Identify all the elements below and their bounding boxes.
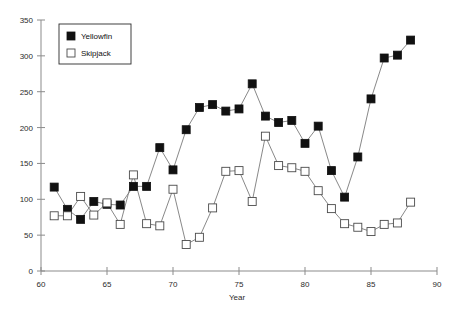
- x-axis-tick-label: 75: [235, 280, 244, 289]
- y-axis-tick-label: 300: [20, 52, 34, 61]
- data-point-yellowfin: [222, 107, 230, 115]
- line-chart-plot: 050100150200250300350 60657075808590 Yel…: [0, 0, 459, 316]
- chart-legend: YellowfinSkipjack: [59, 24, 131, 64]
- data-point-yellowfin: [90, 197, 98, 205]
- data-point-yellowfin: [354, 153, 362, 161]
- data-point-yellowfin: [143, 182, 151, 190]
- data-point-skipjack: [222, 167, 230, 175]
- legend-marker-yellowfin: [67, 32, 75, 40]
- legend-box: [59, 24, 131, 64]
- data-point-skipjack: [50, 212, 58, 220]
- data-point-yellowfin: [77, 215, 85, 223]
- x-axis-tick-label: 70: [169, 280, 178, 289]
- data-point-skipjack: [301, 167, 309, 175]
- data-point-skipjack: [209, 204, 217, 212]
- data-point-skipjack: [182, 240, 190, 248]
- y-axis-tick-label: 350: [20, 16, 34, 25]
- y-axis-tick-label: 150: [20, 159, 34, 168]
- data-point-skipjack: [195, 233, 203, 241]
- y-axis-tick-label: 250: [20, 88, 34, 97]
- data-point-skipjack: [354, 223, 362, 231]
- data-point-skipjack: [380, 220, 388, 228]
- data-point-skipjack: [90, 211, 98, 219]
- legend-marker-skipjack: [67, 49, 75, 57]
- x-axis-tick-label: 80: [301, 280, 310, 289]
- data-point-skipjack: [327, 205, 335, 213]
- data-point-yellowfin: [169, 166, 177, 174]
- y-axis-tick-label: 200: [20, 124, 34, 133]
- data-series-group: [50, 36, 414, 248]
- data-point-yellowfin: [288, 116, 296, 124]
- x-axis-tick-label: 65: [103, 280, 112, 289]
- series-line-yellowfin: [54, 40, 410, 219]
- data-point-yellowfin: [248, 80, 256, 88]
- data-point-yellowfin: [275, 119, 283, 127]
- data-point-yellowfin: [393, 51, 401, 59]
- data-point-yellowfin: [367, 95, 375, 103]
- data-point-yellowfin: [50, 183, 58, 191]
- data-point-yellowfin: [301, 139, 309, 147]
- data-point-yellowfin: [209, 101, 217, 109]
- data-point-skipjack: [156, 222, 164, 230]
- data-point-skipjack: [261, 132, 269, 140]
- data-point-skipjack: [341, 220, 349, 228]
- data-point-yellowfin: [116, 201, 124, 209]
- x-axis-title: Year: [229, 293, 246, 302]
- data-point-yellowfin: [341, 193, 349, 201]
- data-point-yellowfin: [195, 103, 203, 111]
- x-axis: 60657075808590: [37, 267, 442, 289]
- x-axis-tick-label: 85: [367, 280, 376, 289]
- data-point-skipjack: [407, 198, 415, 206]
- data-point-yellowfin: [327, 167, 335, 175]
- data-point-skipjack: [235, 167, 243, 175]
- chart-container: 050100150200250300350 60657075808590 Yel…: [0, 0, 459, 316]
- data-point-skipjack: [143, 220, 151, 228]
- data-point-skipjack: [288, 164, 296, 172]
- data-point-skipjack: [275, 162, 283, 170]
- data-point-yellowfin: [261, 112, 269, 120]
- data-point-skipjack: [116, 220, 124, 228]
- y-axis-tick-label: 50: [24, 231, 33, 240]
- data-point-skipjack: [77, 192, 85, 200]
- data-point-skipjack: [367, 228, 375, 236]
- data-point-skipjack: [248, 197, 256, 205]
- x-axis-tick-label: 60: [37, 280, 46, 289]
- legend-label-yellowfin: Yellowfin: [81, 32, 112, 41]
- data-point-yellowfin: [235, 105, 243, 113]
- data-point-yellowfin: [182, 126, 190, 134]
- data-point-skipjack: [169, 185, 177, 193]
- y-axis: 050100150200250300350: [20, 16, 45, 276]
- x-axis-tick-label: 90: [433, 280, 442, 289]
- y-axis-tick-label: 100: [20, 195, 34, 204]
- y-axis-tick-label: 0: [29, 267, 34, 276]
- legend-label-skipjack: Skipjack: [81, 49, 112, 58]
- data-point-skipjack: [129, 171, 137, 179]
- data-point-yellowfin: [129, 182, 137, 190]
- data-point-skipjack: [103, 199, 111, 207]
- data-point-yellowfin: [314, 122, 322, 130]
- data-point-yellowfin: [407, 36, 415, 44]
- data-point-skipjack: [63, 212, 71, 220]
- data-point-yellowfin: [156, 144, 164, 152]
- data-point-skipjack: [393, 219, 401, 227]
- data-point-skipjack: [314, 187, 322, 195]
- data-point-yellowfin: [380, 54, 388, 62]
